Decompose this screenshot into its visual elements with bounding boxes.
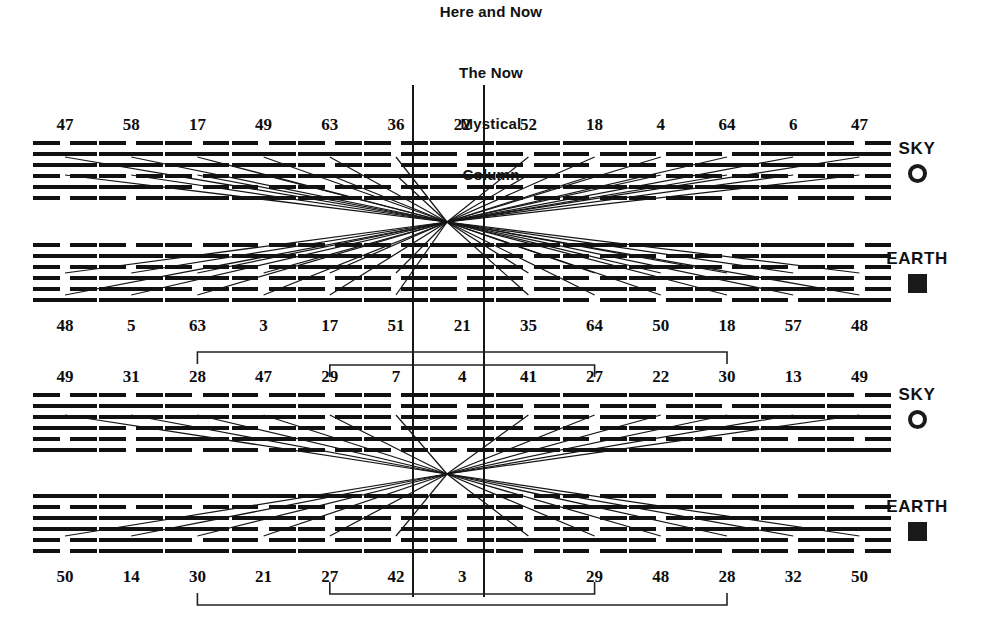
yang-line: [165, 426, 229, 430]
yang-line: [99, 527, 163, 531]
yin-line: [33, 538, 97, 542]
yang-line: [33, 404, 97, 408]
hexagram: [827, 141, 891, 200]
yin-line: [761, 494, 825, 498]
yang-line: [232, 298, 296, 302]
hexagram: [430, 141, 494, 200]
yang-line: [563, 141, 627, 145]
yang-line: [496, 393, 560, 397]
yin-line: [496, 265, 560, 269]
yang-line: [232, 152, 296, 156]
yang-line: [33, 185, 97, 189]
hexagram: [430, 494, 494, 553]
yin-line: [99, 141, 163, 145]
yin-line: [563, 494, 627, 498]
lower-outer-bracket: [197, 593, 727, 605]
yang-line: [232, 415, 296, 419]
hexagram-number: 48: [827, 316, 891, 336]
yin-line: [232, 265, 296, 269]
yin-line: [298, 505, 362, 509]
yin-line: [165, 265, 229, 269]
yin-line: [496, 516, 560, 520]
yang-line: [761, 141, 825, 145]
yin-line: [33, 437, 97, 441]
yin-line: [563, 152, 627, 156]
yang-line: [232, 254, 296, 258]
hexagram: [165, 393, 229, 452]
yang-line: [99, 538, 163, 542]
yang-line: [298, 437, 362, 441]
yang-line: [761, 243, 825, 247]
yang-line: [298, 298, 362, 302]
yin-line: [629, 196, 693, 200]
yin-line: [99, 265, 163, 269]
hexagram-number: 3: [232, 316, 296, 336]
yang-line: [165, 516, 229, 520]
yin-line: [165, 287, 229, 291]
yin-line: [298, 276, 362, 280]
yang-line: [232, 163, 296, 167]
yang-line: [629, 141, 693, 145]
yin-line: [232, 141, 296, 145]
hexagram-number: 32: [761, 567, 825, 587]
yin-line: [364, 426, 428, 430]
yin-line: [563, 404, 627, 408]
hexagram-number: 27: [563, 367, 627, 387]
yin-line: [761, 265, 825, 269]
yang-line: [364, 549, 428, 553]
yang-line: [629, 448, 693, 452]
hexagram-number: 4: [629, 115, 693, 135]
hexagram: [33, 141, 97, 200]
yin-line: [364, 243, 428, 247]
yang-line: [496, 141, 560, 145]
hexagram-number: 5: [99, 316, 163, 336]
yin-line: [364, 448, 428, 452]
yin-line: [99, 505, 163, 509]
yang-line: [165, 527, 229, 531]
hexagram-number: 6: [761, 115, 825, 135]
yang-line: [496, 538, 560, 542]
yin-line: [364, 415, 428, 419]
yang-line: [563, 538, 627, 542]
yin-line: [99, 243, 163, 247]
yin-line: [695, 494, 759, 498]
hexagram: [33, 494, 97, 553]
hexagram: [430, 393, 494, 452]
hexagram: [761, 494, 825, 553]
yin-line: [364, 141, 428, 145]
yin-line: [99, 426, 163, 430]
yang-line: [165, 549, 229, 553]
yang-line: [99, 516, 163, 520]
yang-line: [761, 505, 825, 509]
yin-line: [430, 426, 494, 430]
yin-line: [430, 516, 494, 520]
yang-line: [298, 404, 362, 408]
hexagram: [298, 393, 362, 452]
yin-line: [827, 549, 891, 553]
circle-outline-icon: [908, 164, 927, 183]
yang-line: [33, 516, 97, 520]
yang-line: [695, 448, 759, 452]
yang-line: [232, 549, 296, 553]
yang-line: [695, 185, 759, 189]
yin-line: [364, 287, 428, 291]
hexagram: [298, 494, 362, 553]
yang-line: [761, 287, 825, 291]
hexagram-number: 63: [298, 115, 362, 135]
yang-line: [364, 298, 428, 302]
yin-line: [496, 415, 560, 419]
yin-line: [33, 393, 97, 397]
yin-line: [496, 287, 560, 291]
hexagram: [496, 141, 560, 200]
upper-outer-bracket: [197, 352, 727, 364]
hexagram: [33, 243, 97, 302]
yin-line: [232, 538, 296, 542]
yang-line: [695, 243, 759, 247]
hexagram: [629, 494, 693, 553]
hexagram: [364, 393, 428, 452]
hexagram-number: 58: [99, 115, 163, 135]
yin-line: [430, 404, 494, 408]
yin-line: [629, 163, 693, 167]
yang-line: [33, 415, 97, 419]
hexagram-number: 21: [232, 567, 296, 587]
